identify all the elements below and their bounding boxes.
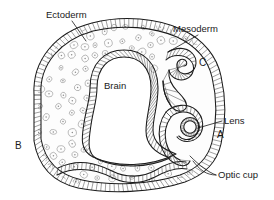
label-ectoderm: Ectoderm	[46, 10, 87, 20]
label-lens: Lens	[224, 116, 245, 126]
label-brain: Brain	[104, 81, 126, 91]
label-marker-a: A	[217, 130, 224, 140]
label-marker-b: B	[15, 141, 22, 151]
label-marker-c: C	[199, 58, 206, 68]
embryology-figure: Ectoderm Mesoderm Brain C Lens A B Optic…	[0, 0, 274, 200]
label-optic-cup: Optic cup	[218, 170, 258, 180]
label-mesoderm: Mesoderm	[173, 24, 218, 34]
